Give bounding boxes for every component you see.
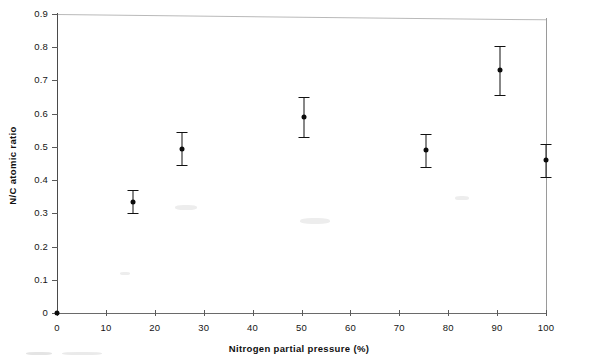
y-tick-label: 0.2: [34, 241, 48, 252]
x-tick: [253, 310, 254, 316]
x-tick-label: 90: [492, 322, 503, 333]
y-tick: [52, 180, 58, 181]
error-bar-cap: [176, 132, 187, 133]
y-tick: [52, 147, 58, 148]
scan-speck: [300, 218, 330, 224]
x-tick: [399, 310, 400, 316]
scan-speck: [175, 205, 197, 210]
x-tick: [204, 310, 205, 316]
data-point: [544, 158, 549, 163]
y-tick: [52, 14, 58, 15]
y-tick-label: 0.7: [34, 74, 48, 85]
y-tick: [52, 80, 58, 81]
error-bar-cap: [421, 167, 432, 168]
x-tick-label: 30: [198, 322, 209, 333]
error-bar-cap: [541, 177, 552, 178]
scan-speck: [455, 196, 469, 200]
scan-speck: [62, 352, 102, 355]
x-tick-label: 10: [100, 322, 111, 333]
y-tick: [52, 47, 58, 48]
y-tick: [52, 247, 58, 248]
scan-speck: [120, 272, 130, 275]
error-bar-cap: [298, 97, 309, 98]
data-point: [424, 148, 429, 153]
x-tick-label: 60: [345, 322, 356, 333]
y-tick: [52, 213, 58, 214]
y-tick: [52, 114, 58, 115]
x-tick: [497, 310, 498, 316]
y-axis-title: N/C atomic ratio: [7, 106, 18, 226]
x-tick: [546, 310, 547, 316]
x-tick: [106, 310, 107, 316]
error-bar-cap: [494, 95, 505, 96]
x-tick-label: 50: [296, 322, 307, 333]
plot-frame-top: [57, 14, 546, 20]
y-tick-label: 0.1: [34, 274, 48, 285]
data-point: [55, 311, 60, 316]
x-tick-label: 20: [149, 322, 160, 333]
x-tick-label: 100: [538, 322, 554, 333]
y-tick-label: 0: [43, 307, 48, 318]
error-bar-cap: [298, 137, 309, 138]
y-tick-label: 0.3: [34, 207, 48, 218]
y-tick: [52, 280, 58, 281]
x-tick: [448, 310, 449, 316]
x-tick-label: 0: [54, 322, 59, 333]
error-bar-cap: [541, 144, 552, 145]
error-bar-cap: [127, 213, 138, 214]
error-bar-cap: [127, 190, 138, 191]
data-point: [130, 199, 135, 204]
error-bar-cap: [494, 46, 505, 47]
y-axis-line: [57, 13, 58, 314]
error-bar-cap: [421, 134, 432, 135]
data-point: [301, 114, 306, 119]
scan-speck: [26, 352, 52, 355]
y-tick-label: 0.5: [34, 141, 48, 152]
y-tick-label: 0.9: [34, 8, 48, 19]
y-tick-label: 0.6: [34, 108, 48, 119]
error-bar-cap: [176, 165, 187, 166]
data-point: [497, 68, 502, 73]
data-point: [179, 146, 184, 151]
x-tick: [155, 310, 156, 316]
x-tick: [350, 310, 351, 316]
y-tick-label: 0.4: [34, 174, 48, 185]
x-tick-label: 70: [394, 322, 405, 333]
figure: 00.10.20.30.40.50.60.70.80.9 01020304050…: [0, 0, 598, 364]
y-tick-label: 0.8: [34, 41, 48, 52]
x-tick-label: 80: [443, 322, 454, 333]
x-tick-label: 40: [247, 322, 258, 333]
x-tick: [302, 310, 303, 316]
